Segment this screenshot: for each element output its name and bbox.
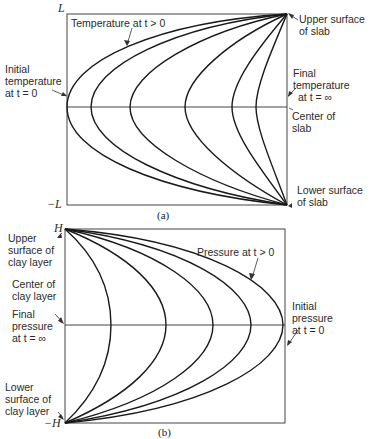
panel-b-final-label: Final pressure at t = ∞	[12, 308, 53, 344]
panel-b-lower-surface-label: Lower surface of clay layer	[5, 381, 51, 417]
label-line: Initial	[292, 300, 333, 312]
label-line: pressure	[12, 320, 53, 332]
label-line: at t = 0	[292, 324, 333, 336]
panel-b-center-label: Center of clay layer	[12, 278, 56, 302]
label-line: pressure	[292, 312, 333, 324]
panel-a-upper-surface-label: Upper surface of slab	[299, 13, 365, 37]
label-line: Initial	[5, 63, 62, 75]
panel-b-y-bottom-label: −H	[44, 417, 61, 429]
label-line: Center of	[12, 278, 56, 290]
label-line: Upper surface	[299, 13, 365, 25]
label-line: of slab	[299, 25, 365, 37]
label-line: of slab	[297, 196, 363, 208]
label-line: Final	[12, 308, 53, 320]
label-line: at t = ∞	[293, 91, 350, 103]
label-line: Upper	[8, 232, 54, 244]
panel-a-frame	[67, 14, 287, 205]
label-line: at t = ∞	[12, 332, 53, 344]
label-line: surface of	[8, 244, 54, 256]
label-line: temperature	[5, 75, 62, 87]
panel-a-y-bottom-label: −L	[47, 198, 62, 210]
label-line: Center of	[292, 110, 335, 122]
panel-a-caption: (a)	[157, 209, 169, 221]
label-line: Final	[293, 67, 350, 79]
label-line: clay layer	[8, 256, 54, 268]
label-line: clay layer	[5, 405, 51, 417]
panel-a-temperature-curves	[67, 14, 287, 205]
label-line: Lower surface	[297, 184, 363, 196]
label-line: Lower	[5, 381, 51, 393]
panel-b-y-top-label: H	[54, 222, 63, 234]
panel-a-y-top-label: L	[58, 2, 65, 14]
label-line: surface of	[5, 393, 51, 405]
label-line: temperature	[293, 79, 350, 91]
panel-b-curves-label: Pressure at t > 0	[197, 246, 274, 258]
panel-b-upper-surface-label: Upper surface of clay layer	[8, 232, 54, 268]
label-line: clay layer	[12, 290, 56, 302]
panel-a-final-label: Final temperature at t = ∞	[293, 67, 350, 103]
panel-a-center-label: Center of slab	[292, 110, 335, 134]
panel-b-initial-label: Initial pressure at t = 0	[292, 300, 333, 336]
panel-b-caption: (b)	[158, 426, 171, 438]
label-line: at t = 0	[5, 87, 62, 99]
panel-a-lower-surface-label: Lower surface of slab	[297, 184, 363, 208]
panel-a-initial-label: Initial temperature at t = 0	[5, 63, 62, 99]
panel-a-curves-label: Temperature at t > 0	[71, 17, 165, 29]
panel-b-pressure-curves	[65, 229, 283, 423]
label-line: slab	[292, 122, 335, 134]
